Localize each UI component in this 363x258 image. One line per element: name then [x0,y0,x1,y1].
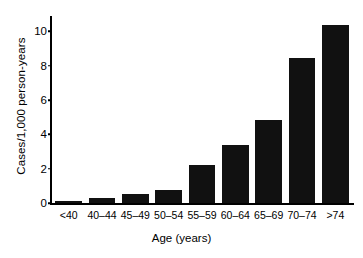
bar [89,198,116,203]
y-tick-label: 0 [41,197,47,209]
bar-chart-figure: Cases/1,000 person-years 0246810 <4040–4… [0,0,363,258]
x-tick-label: 65–69 [254,209,283,221]
x-tick-label: 45–49 [121,209,150,221]
bar [222,145,249,203]
bar [155,190,182,203]
bar [322,25,349,203]
x-tick-label: 70–74 [287,209,316,221]
plot-area: 0246810 <4040–4445–4950–5455–5960–6465–6… [52,16,352,203]
y-tick-mark [48,168,52,170]
y-tick-label: 8 [41,60,47,72]
x-tick-label: 60–64 [221,209,250,221]
x-axis-title: Age (years) [0,232,363,244]
y-tick-mark [48,202,52,204]
bar [55,201,82,203]
x-tick-label: 55–59 [187,209,216,221]
y-tick-label: 10 [34,25,47,37]
y-tick-mark [48,134,52,136]
x-tick-label: >74 [326,209,344,221]
bar [255,120,282,203]
x-tick-label: 50–54 [154,209,183,221]
y-tick-mark [48,31,52,33]
y-axis-title: Cases/1,000 person-years [15,11,27,201]
y-tick-label: 2 [41,163,47,175]
y-tick-label: 6 [41,94,47,106]
bar [122,194,149,203]
bar [289,58,316,203]
y-tick-mark [48,99,52,101]
y-tick-label: 4 [41,128,47,140]
x-axis-line [50,203,354,205]
y-tick-mark [48,65,52,67]
x-tick-label: 40–44 [87,209,116,221]
x-tick-label: <40 [60,209,78,221]
bar [189,165,216,203]
y-axis-line [50,16,52,205]
